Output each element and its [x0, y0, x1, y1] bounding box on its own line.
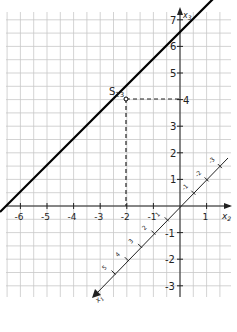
x3-tick-label: 1	[170, 174, 176, 185]
x1-tick-label: 5	[100, 263, 108, 271]
coordinate-figure: x2 x3 -6-5-4-3-2-11 7654321-1-2-3 x1 -3-…	[0, 0, 237, 332]
point-s23-label: S23	[109, 86, 124, 99]
trace-line	[0, 0, 218, 212]
x3-ticks: 7654321-1-2-3	[165, 15, 189, 292]
x3-tick-label: 3	[170, 121, 176, 132]
x2-tick-label: -3	[94, 212, 103, 222]
x3-tick-label: 2	[170, 148, 176, 159]
x3-tick-label: 5	[170, 68, 176, 79]
x2-tick-label: -5	[41, 212, 50, 222]
x3-tick-label: 7	[170, 15, 176, 26]
x1-axis: x1 -3-2-112345	[92, 155, 228, 305]
x3-tick-label: 6	[170, 41, 176, 52]
x3-tick-label: 4	[183, 95, 189, 106]
x2-tick-label: -4	[68, 212, 77, 222]
x1-tick-label: 2	[140, 224, 148, 232]
x2-tick-label: -2	[121, 212, 130, 222]
x2-arrow-icon	[224, 203, 232, 209]
point-s23	[124, 97, 128, 101]
x2-axis-label: x2	[221, 211, 231, 222]
x3-axis-label: x3	[182, 11, 192, 21]
x1-tick-label: -1	[180, 182, 189, 191]
x3-tick-label: -2	[165, 254, 175, 265]
x3-tick-label: -3	[165, 281, 175, 292]
x1-tick-label: 4	[114, 250, 122, 258]
x3-axis: x3	[177, 7, 192, 297]
x2-tick-label: 1	[203, 212, 209, 222]
x1-tick-label: -3	[207, 155, 216, 164]
x1-tick-label: 3	[127, 237, 135, 245]
x1-tick-label: -2	[193, 169, 202, 178]
x3-tick-label: -1	[165, 228, 175, 239]
x2-tick-label: -6	[14, 212, 23, 222]
